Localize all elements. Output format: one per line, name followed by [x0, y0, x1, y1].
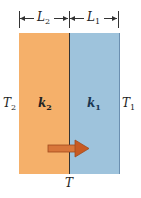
label-k2: k2 [38, 96, 52, 112]
label-t-interface: T [65, 176, 73, 190]
dim-label-l1: L1 [87, 10, 100, 26]
heat-flow-arrow-icon [45, 139, 95, 159]
dim-label-l2: L2 [37, 10, 50, 26]
label-t1: T1 [122, 96, 135, 112]
label-t2: T2 [3, 96, 16, 112]
label-k1: k1 [87, 96, 101, 112]
